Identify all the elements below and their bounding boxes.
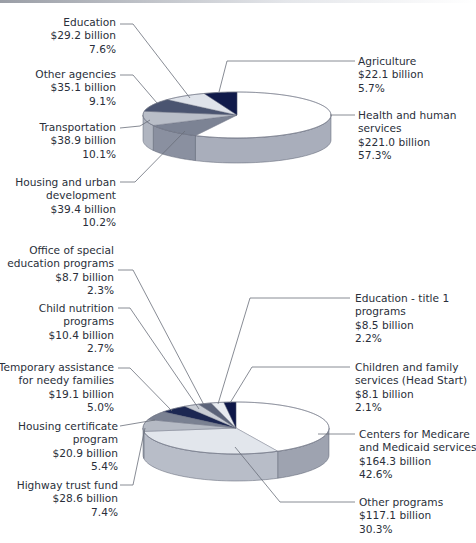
leader-tanf bbox=[118, 368, 172, 411]
leader-other-agencies bbox=[120, 75, 157, 103]
leader-title1 bbox=[218, 298, 350, 404]
label-transportation: Transportation $38.9 billion 10.1% bbox=[40, 121, 117, 161]
label-child-nutrition: Child nutrition programs $10.4 billion 2… bbox=[39, 302, 114, 356]
pie-chart-programs bbox=[143, 402, 329, 481]
label-tanf: Temporary assistance for needy families … bbox=[0, 361, 114, 415]
label-cms: Centers for Medicare and Medicaid servic… bbox=[359, 428, 476, 482]
leader-highway bbox=[120, 428, 145, 485]
label-agriculture: Agriculture $22.1 billion 5.7% bbox=[358, 55, 423, 95]
label-highway-trust-fund: Highway trust fund $28.6 billion 7.4% bbox=[17, 479, 118, 519]
label-other-agencies: Other agencies $35.1 billion 9.1% bbox=[35, 68, 116, 108]
leader-agriculture bbox=[219, 61, 355, 92]
label-housing-certificate: Housing certificate program $20.9 billio… bbox=[18, 420, 118, 474]
label-education-title-1: Education - title 1 programs $8.5 billio… bbox=[355, 292, 449, 346]
leader-child-nutrition bbox=[118, 308, 199, 409]
pie-chart-agencies bbox=[143, 92, 331, 163]
leader-head-start bbox=[230, 367, 350, 403]
label-health-human-services: Health and human services $221.0 billion… bbox=[358, 109, 456, 163]
label-head-start: Children and family services (Head Start… bbox=[355, 361, 467, 415]
label-housing-urban-development: Housing and urban development $39.4 bill… bbox=[15, 176, 116, 230]
label-office-special-education: Office of special education programs $8.… bbox=[7, 244, 114, 298]
leader-special-ed bbox=[118, 270, 204, 405]
label-other-programs: Other programs $117.1 billion 30.3% bbox=[359, 496, 443, 536]
label-education: Education $29.2 billion 7.6% bbox=[51, 16, 116, 56]
leader-education bbox=[120, 24, 190, 98]
pie-top-face bbox=[143, 92, 331, 138]
